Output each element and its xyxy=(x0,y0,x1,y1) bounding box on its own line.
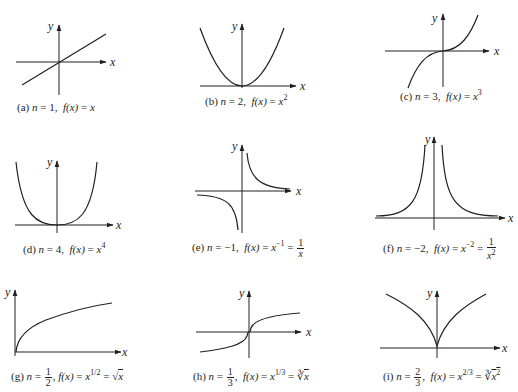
caption-d: (d) n = 4, f(x) = x4 xyxy=(23,241,105,255)
caption-i: (i) n = 23, f(x) = x2/3 = ∛x2 xyxy=(383,367,500,388)
x-axis-label: x xyxy=(115,218,122,232)
curve-inverse-square-right xyxy=(442,145,498,216)
panel-d-graph: x y xyxy=(15,155,122,233)
x-axis-label: x xyxy=(507,211,514,225)
caption-b: (b) n = 2, f(x) = x2 xyxy=(205,93,287,107)
x-axis-label: x xyxy=(121,345,128,359)
curve-square-root-main xyxy=(16,303,112,352)
fraction-two-thirds: 23 xyxy=(414,367,421,388)
caption-a: (a) xn = 1, f(x) = x xyxy=(17,101,95,113)
panel-h-graph: x y xyxy=(196,286,312,358)
y-axis-label: y xyxy=(231,139,238,153)
y-axis-label: y xyxy=(47,19,54,33)
fraction-one-third: 13 xyxy=(227,367,234,388)
panel-b-graph: x y xyxy=(200,19,306,93)
y-axis-label: y xyxy=(4,285,11,299)
curve-reciprocal-positive xyxy=(247,153,290,189)
x-axis-label: x xyxy=(109,55,116,69)
panel-g-graph: x y xyxy=(4,285,128,359)
panel-a-graph: x y xyxy=(16,19,116,95)
curve-inverse-square-left xyxy=(376,145,425,216)
x-axis-label: x xyxy=(493,44,500,58)
caption-g: (g) n = 12, f(x) = x1/2 = √x xyxy=(11,367,123,388)
y-axis-label: y xyxy=(424,132,431,146)
y-axis-label: y xyxy=(231,19,238,33)
x-axis-label: x xyxy=(305,325,312,339)
caption-e: (e) n = −1, f(x) = x−1 = 1x xyxy=(192,238,305,259)
panel-c-graph: x y xyxy=(385,11,500,88)
fraction-one-over-x: 1x xyxy=(297,238,304,259)
y-axis-label: y xyxy=(238,286,245,300)
x-axis-label: x xyxy=(299,79,306,93)
y-axis-label: y xyxy=(431,11,438,25)
curve-linear xyxy=(22,34,106,85)
panel-e-graph: x y xyxy=(195,139,302,233)
panel-i-graph: x y xyxy=(380,286,508,358)
x-axis-label: x xyxy=(501,341,508,355)
panel-f-graph: x y xyxy=(375,132,514,230)
caption-h: (h) n = 13, f(x) = x1/3 = ∛x xyxy=(193,367,309,388)
curve-reciprocal-negative xyxy=(197,195,238,230)
curve-two-thirds-power xyxy=(386,294,486,346)
power-functions-figure: x y x y x y x y x y x y xyxy=(0,0,518,392)
y-axis-label: y xyxy=(46,155,53,169)
y-axis-label: y xyxy=(426,286,433,300)
fraction-one-over-x-squared: 1x2 xyxy=(487,237,495,261)
fraction-one-half: 12 xyxy=(45,367,52,388)
caption-c: (c) n = 3, f(x) = x3 xyxy=(400,88,482,102)
caption-f: (f) n = −2, f(x) = x−2 = 1x2 xyxy=(383,237,497,261)
x-axis-label: x xyxy=(295,184,302,198)
